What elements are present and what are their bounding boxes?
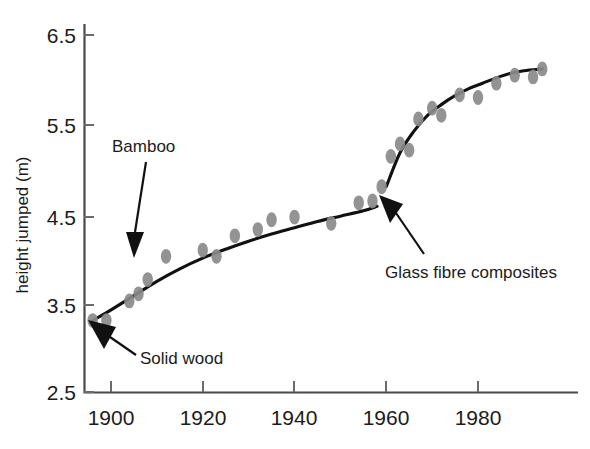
y-tick-label-6.5: 6.5	[47, 24, 76, 47]
y-tick-label-3.5: 3.5	[47, 294, 76, 317]
data-point	[386, 149, 396, 164]
glass-fibre-leader-line	[396, 213, 424, 254]
data-point	[161, 249, 171, 264]
solid-wood-leader-line	[110, 337, 136, 355]
bamboo-arrow-head	[126, 232, 144, 258]
solid-wood-arrow-head	[88, 320, 116, 349]
pole-vault-record-chart: 6.5 5.5 4.5 3.5 2.5 1900 1920 1940 1960 …	[0, 0, 590, 449]
x-tick-label-1920: 1920	[180, 406, 227, 429]
bamboo-leader-line	[135, 162, 146, 232]
annotation-label-solid-wood: Solid wood	[140, 349, 223, 368]
data-point	[510, 68, 520, 83]
data-points-group	[87, 62, 547, 328]
data-point	[354, 195, 364, 210]
y-tick-label-5.5: 5.5	[47, 114, 76, 137]
data-point	[133, 286, 143, 301]
annotation-label-bamboo: Bamboo	[112, 137, 175, 156]
data-point	[289, 210, 299, 225]
annotation-label-glass-fibre: Glass fibre composites	[385, 263, 557, 282]
x-tick-label-1940: 1940	[271, 406, 318, 429]
annotation-solid-wood: Solid wood	[88, 320, 223, 368]
annotation-glass-fibre: Glass fibre composites	[379, 195, 557, 282]
y-tick-label-2.5: 2.5	[47, 381, 76, 404]
trend-line-glass-fibre	[386, 69, 542, 187]
axis-lines	[85, 24, 579, 393]
data-point	[253, 222, 263, 237]
data-point	[413, 112, 423, 127]
x-tick-label-1960: 1960	[363, 406, 410, 429]
data-point	[537, 62, 547, 77]
chart-figure: 6.5 5.5 4.5 3.5 2.5 1900 1920 1940 1960 …	[0, 0, 590, 449]
data-point	[376, 179, 386, 194]
data-point	[404, 143, 414, 158]
data-point	[427, 101, 437, 116]
data-point	[454, 87, 464, 102]
data-point	[491, 76, 501, 91]
x-tick-label-1900: 1900	[88, 406, 135, 429]
data-point	[326, 216, 336, 231]
data-point	[230, 228, 240, 243]
data-point	[143, 272, 153, 287]
data-point	[528, 70, 538, 85]
data-point	[211, 249, 221, 264]
y-axis-title: height jumped (m)	[13, 156, 32, 293]
data-point	[198, 243, 208, 258]
x-tick-label-1980: 1980	[455, 406, 502, 429]
data-point	[124, 294, 134, 309]
data-point	[436, 108, 446, 123]
x-axis-ticks	[111, 381, 478, 392]
data-point	[367, 194, 377, 209]
data-point	[473, 90, 483, 105]
y-tick-label-4.5: 4.5	[47, 206, 76, 229]
data-point	[395, 136, 405, 151]
data-point	[266, 212, 276, 227]
annotation-bamboo: Bamboo	[112, 137, 175, 258]
